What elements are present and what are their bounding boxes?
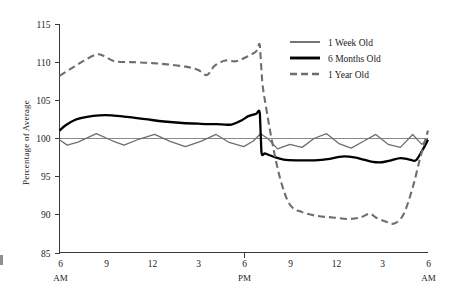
y-tick-label-90: 90	[41, 210, 51, 220]
x-tick-label-3: 3	[196, 259, 201, 269]
chart-background	[0, 0, 452, 295]
y-tick-label-95: 95	[41, 172, 51, 182]
legend-label-1-week-old: 1 Week Old	[328, 38, 373, 48]
chart-container: 859095100105110115 6AM91236PM91236AM Per…	[0, 0, 452, 295]
legend-label-6-months-old: 6 Months Old	[328, 54, 381, 64]
x-tick-label-5: 9	[288, 259, 293, 269]
y-tick-label-85: 85	[41, 249, 51, 259]
x-tick-label-6: 12	[332, 259, 342, 269]
x-tick-period-4: PM	[238, 273, 251, 283]
x-tick-label-2: 12	[148, 259, 158, 269]
y-axis-title: Percentage of Average	[21, 100, 31, 185]
x-tick-label-7: 3	[380, 259, 385, 269]
legend-label-1-year-old: 1 Year Old	[328, 70, 369, 80]
x-tick-label-4: 6	[242, 259, 247, 269]
y-tick-label-105: 105	[36, 96, 51, 106]
x-tick-period-0: AM	[53, 273, 68, 283]
line-chart: 859095100105110115 6AM91236PM91236AM Per…	[0, 0, 452, 295]
y-tick-label-115: 115	[37, 20, 51, 30]
x-tick-label-1: 9	[104, 259, 109, 269]
y-tick-label-110: 110	[37, 58, 51, 68]
x-tick-label-8: 6	[426, 259, 431, 269]
y-tick-label-100: 100	[36, 134, 51, 144]
x-tick-period-8: AM	[421, 273, 436, 283]
left-edge-mark	[0, 255, 3, 265]
x-tick-label-0: 6	[58, 259, 63, 269]
